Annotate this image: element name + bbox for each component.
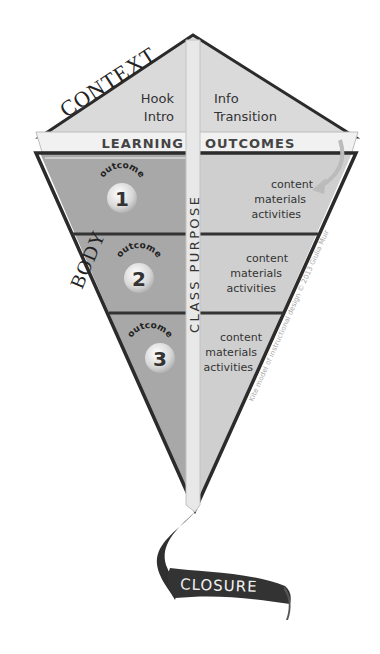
outcome-3-number: 3 bbox=[153, 347, 167, 371]
outcome-3-materials: materials bbox=[205, 346, 257, 359]
context-left-line2: Intro bbox=[144, 109, 174, 124]
outcome-3-content: content bbox=[220, 331, 263, 344]
context-left-line1: Hook bbox=[141, 91, 175, 106]
outcome-2-activities: activities bbox=[226, 282, 276, 295]
outcome-1-content: content bbox=[271, 178, 314, 191]
outcome-2-materials: materials bbox=[230, 267, 282, 280]
learning-label: LEARNING bbox=[101, 136, 184, 151]
outcomes-label: OUTCOMES bbox=[205, 136, 295, 151]
class-purpose-label: CLASS PURPOSE bbox=[187, 195, 202, 333]
context-right-line1: Info bbox=[214, 91, 239, 106]
outcome-2-content: content bbox=[246, 252, 289, 265]
closure-ribbon bbox=[157, 512, 291, 620]
context-right-line2: Transition bbox=[213, 109, 277, 124]
outcome-2-number: 2 bbox=[132, 267, 146, 291]
outcome-1-number: 1 bbox=[115, 187, 129, 211]
closure-label: CLOSURE bbox=[180, 575, 258, 596]
kite-diagram: CONTEXT Hook Intro Info Transition LEARN… bbox=[0, 0, 380, 654]
outcome-1-materials: materials bbox=[254, 193, 306, 206]
outcome-1-activities: activities bbox=[251, 208, 301, 221]
outcome-3-activities: activities bbox=[203, 361, 253, 374]
